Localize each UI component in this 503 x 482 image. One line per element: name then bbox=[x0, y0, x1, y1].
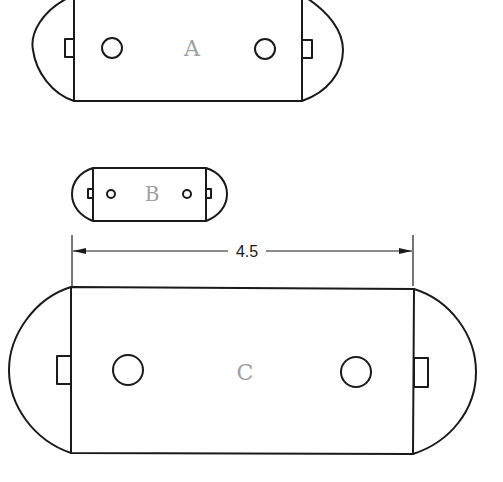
shape-b-left-tab bbox=[88, 189, 93, 198]
dimension-value: 4.5 bbox=[236, 243, 258, 260]
shape-a-left-tab bbox=[65, 39, 74, 57]
shape-a: A bbox=[32, 0, 343, 101]
shape-b: B bbox=[72, 168, 227, 221]
shape-c-left-tab bbox=[57, 356, 71, 384]
shape-a-right-hole bbox=[255, 39, 275, 59]
shape-c-label: C bbox=[237, 360, 254, 385]
shape-c-right-hole bbox=[341, 357, 371, 387]
diagram-canvas: A B 4.5 C bbox=[0, 0, 503, 482]
arrowhead-right-icon bbox=[399, 248, 412, 254]
shape-b-right-hole bbox=[183, 190, 191, 198]
shape-b-right-tab bbox=[206, 189, 211, 198]
shape-c-right-tab bbox=[414, 358, 428, 387]
shape-a-left-hole bbox=[102, 38, 122, 58]
dimension-annotation: 4.5 bbox=[72, 235, 413, 286]
shape-b-label: B bbox=[145, 182, 160, 206]
shape-b-left-hole bbox=[107, 190, 115, 198]
shape-c: C bbox=[9, 287, 476, 454]
arrowhead-left-icon bbox=[73, 248, 86, 254]
shape-c-left-hole bbox=[113, 355, 143, 385]
shape-a-label: A bbox=[183, 36, 201, 61]
shape-a-right-tab bbox=[302, 40, 312, 58]
